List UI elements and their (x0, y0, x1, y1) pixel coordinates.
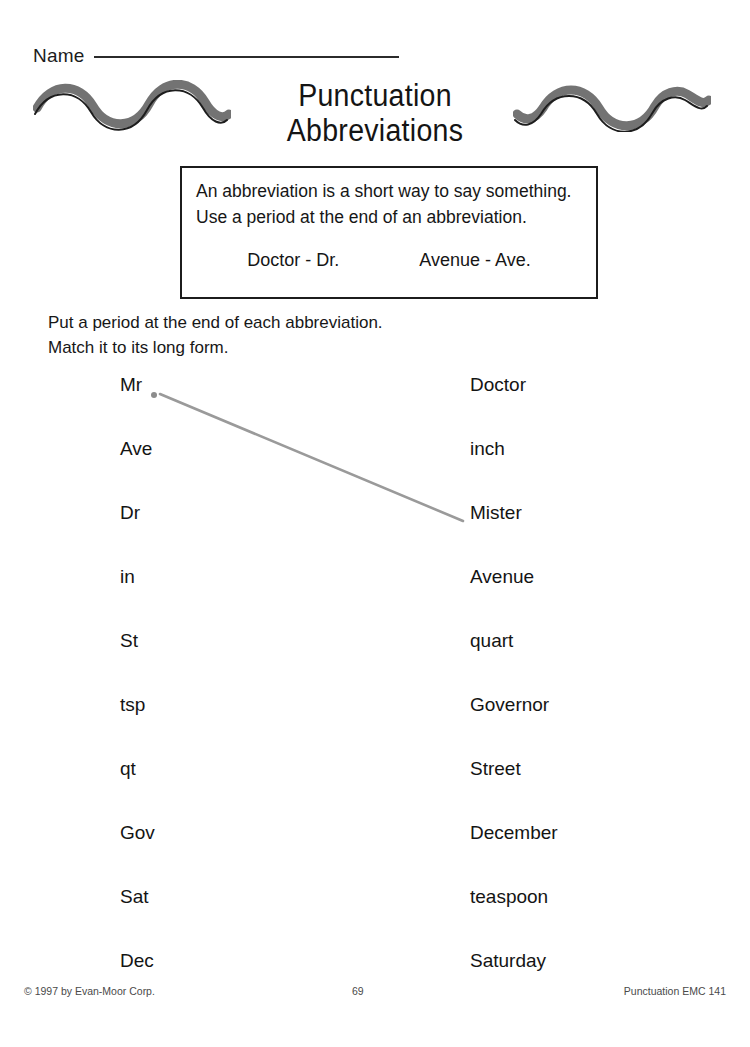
abbreviation-item[interactable]: Dec (120, 950, 154, 972)
direction-line-1: Put a period at the end of each abbrevia… (48, 310, 383, 335)
name-write-in-line[interactable] (94, 56, 399, 58)
long-form-item[interactable]: Street (470, 758, 521, 780)
abbreviation-item[interactable]: Gov (120, 822, 155, 844)
abbreviation-item[interactable]: tsp (120, 694, 145, 716)
long-form-item[interactable]: Mister (470, 502, 522, 524)
table-row: Ave inch (0, 438, 750, 502)
title-line-abbreviations: Abbreviations (30, 113, 720, 148)
table-row: tsp Governor (0, 694, 750, 758)
long-form-item[interactable]: teaspoon (470, 886, 548, 908)
direction-line-2: Match it to its long form. (48, 335, 383, 360)
title-line-punctuation: Punctuation (30, 78, 720, 113)
rule-box: An abbreviation is a short way to say so… (180, 166, 598, 299)
abbreviation-item[interactable]: St (120, 630, 138, 652)
long-form-item[interactable]: Doctor (470, 374, 526, 396)
table-row: Dec Saturday (0, 950, 750, 1014)
footer-product-code: Punctuation EMC 141 (624, 985, 726, 997)
long-form-item[interactable]: inch (470, 438, 505, 460)
name-field-row: Name (33, 45, 399, 67)
table-row: Dr Mister (0, 502, 750, 566)
table-row: St quart (0, 630, 750, 694)
table-row: qt Street (0, 758, 750, 822)
table-row: Gov December (0, 822, 750, 886)
worksheet-page: Name Punctuation Abbreviations An abbrev… (0, 0, 750, 1047)
name-label: Name (33, 45, 84, 67)
long-form-item[interactable]: Saturday (470, 950, 546, 972)
footer-page-number: 69 (352, 985, 364, 997)
directions: Put a period at the end of each abbrevia… (48, 310, 383, 360)
abbreviation-item[interactable]: qt (120, 758, 136, 780)
abbreviation-item[interactable]: Dr (120, 502, 140, 524)
page-title: Punctuation Abbreviations (0, 78, 750, 148)
footer-copyright: © 1997 by Evan-Moor Corp. (24, 985, 155, 997)
matching-exercise: Mr Doctor Ave inch Dr Mister in Avenue S… (0, 374, 750, 984)
long-form-item[interactable]: Avenue (470, 566, 534, 588)
rule-line-1: An abbreviation is a short way to say so… (196, 178, 571, 204)
abbreviation-item[interactable]: in (120, 566, 135, 588)
example-avenue: Avenue - Ave. (419, 250, 530, 271)
abbreviation-item[interactable]: Ave (120, 438, 152, 460)
student-period-mark (151, 392, 157, 398)
long-form-item[interactable]: quart (470, 630, 513, 652)
rule-examples: Doctor - Dr. Avenue - Ave. (182, 250, 596, 271)
table-row: Sat teaspoon (0, 886, 750, 950)
long-form-item[interactable]: December (470, 822, 558, 844)
page-footer: © 1997 by Evan-Moor Corp. 69 Punctuation… (0, 985, 750, 1001)
long-form-item[interactable]: Governor (470, 694, 549, 716)
rule-line-2: Use a period at the end of an abbreviati… (196, 204, 571, 230)
table-row: Mr Doctor (0, 374, 750, 438)
example-doctor: Doctor - Dr. (247, 250, 339, 271)
table-row: in Avenue (0, 566, 750, 630)
rule-text: An abbreviation is a short way to say so… (196, 178, 571, 230)
abbreviation-item[interactable]: Mr (120, 374, 142, 396)
abbreviation-item[interactable]: Sat (120, 886, 149, 908)
